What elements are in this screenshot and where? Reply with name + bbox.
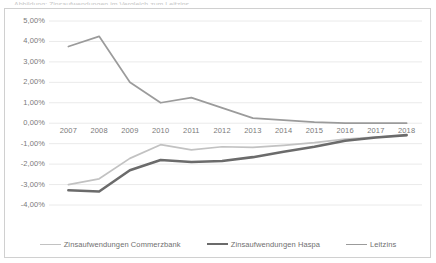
- x-tick-label: 2010: [144, 126, 178, 135]
- legend-line-swatch: [207, 243, 228, 245]
- y-tick-label: 0,00%: [5, 118, 45, 127]
- legend-line-swatch: [40, 244, 61, 245]
- y-tick-label: 2,00%: [5, 77, 45, 86]
- series-line-3: [68, 36, 406, 123]
- y-tick-label: -3,00%: [5, 180, 45, 189]
- cut-off-header-text: Abbildung: Zinsaufwendungen im Vergleich…: [14, 0, 314, 5]
- x-tick-label: 2007: [51, 126, 85, 135]
- y-tick-label: 5,00%: [5, 16, 45, 25]
- chart-container: 5,00%4,00%3,00%2,00%1,00%0,00%-1,00%-2,0…: [4, 8, 431, 258]
- y-tick-label: -2,00%: [5, 159, 45, 168]
- y-tick-label: 3,00%: [5, 57, 45, 66]
- legend-item-1[interactable]: Zinsaufwendungen Commerzbank: [40, 240, 181, 249]
- y-tick-label: -4,00%: [5, 200, 45, 209]
- y-tick-label: 4,00%: [5, 36, 45, 45]
- x-tick-label: 2016: [328, 126, 362, 135]
- x-tick-label: 2014: [267, 126, 301, 135]
- x-tick-label: 2018: [390, 126, 424, 135]
- x-tick-label: 2011: [174, 126, 208, 135]
- y-tick-label: 1,00%: [5, 98, 45, 107]
- legend-item-3[interactable]: Leitzins: [346, 240, 396, 249]
- y-tick-label: -1,00%: [5, 139, 45, 148]
- x-tick-label: 2017: [359, 126, 393, 135]
- x-tick-label: 2013: [236, 126, 270, 135]
- legend-label: Leitzins: [370, 240, 396, 249]
- legend-line-swatch: [346, 244, 367, 245]
- x-tick-label: 2009: [113, 126, 147, 135]
- legend-label: Zinsaufwendungen Haspa: [231, 240, 320, 249]
- chart-legend: Zinsaufwendungen CommerzbankZinsaufwendu…: [0, 234, 436, 254]
- x-tick-label: 2015: [297, 126, 331, 135]
- legend-label: Zinsaufwendungen Commerzbank: [64, 240, 181, 249]
- legend-item-2[interactable]: Zinsaufwendungen Haspa: [207, 240, 320, 249]
- x-tick-label: 2008: [82, 126, 116, 135]
- x-tick-label: 2012: [205, 126, 239, 135]
